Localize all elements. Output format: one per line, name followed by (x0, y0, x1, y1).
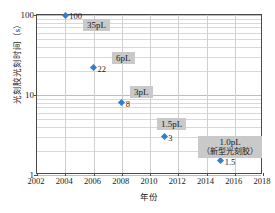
droplet-volume-annotation: 6pL (112, 52, 135, 64)
annotation-sublabel: （新型光刻胶） (202, 147, 258, 156)
annotation-label: 1.5pL (161, 119, 182, 129)
gridline-horizontal (37, 103, 261, 104)
annotation-label: 35pL (87, 20, 106, 30)
x-axis-tick-label: 2012 (169, 176, 186, 186)
gridline-horizontal (37, 127, 261, 128)
gridline-horizontal (37, 47, 261, 48)
y-axis-tick-mark (34, 95, 37, 96)
gridline-horizontal (37, 113, 261, 114)
data-point-value-label: 1.5 (225, 157, 236, 167)
gridline-vertical (65, 15, 66, 173)
annotation-label: 6pL (116, 53, 131, 63)
photoresist-exposure-time-chart: 光刻胶光刻时间（s） 11010010022831.5 年份 200220042… (0, 0, 275, 213)
x-axis-tick-label: 2008 (112, 176, 129, 186)
x-axis-tick-label: 2010 (141, 176, 158, 186)
data-point-marker[interactable] (118, 99, 125, 106)
data-point-value-label: 3 (168, 133, 172, 143)
y-axis-title: 光刻胶光刻时间（s） (10, 2, 22, 122)
gridline-vertical (94, 15, 95, 173)
gridline-vertical (122, 15, 123, 173)
droplet-volume-annotation: 3pL (130, 86, 153, 98)
gridline-horizontal (37, 57, 261, 58)
x-axis-tick-label: 2004 (56, 176, 73, 186)
annotation-label: 1.0pL (219, 137, 240, 147)
droplet-volume-annotation: 1.0pL（新型光刻胶） (198, 136, 262, 158)
gridline-horizontal (37, 71, 261, 72)
data-point-marker[interactable] (161, 133, 168, 140)
gridline-horizontal (37, 107, 261, 108)
y-axis-tick-mark (34, 15, 37, 16)
x-axis-tick-label: 2002 (28, 176, 45, 186)
gridline-horizontal (37, 99, 261, 100)
x-axis-tick-label: 2006 (84, 176, 101, 186)
annotation-label: 3pL (134, 87, 149, 97)
gridline-horizontal (37, 33, 261, 34)
gridline-horizontal (37, 119, 261, 120)
gridline-horizontal (37, 23, 261, 24)
droplet-volume-annotation: 35pL (83, 19, 110, 31)
x-axis-tick-label: 2014 (197, 176, 214, 186)
data-point-value-label: 8 (126, 99, 130, 109)
x-axis-tick-label: 2016 (225, 176, 242, 186)
x-axis-title: 年份 (36, 190, 262, 202)
data-point-value-label: 100 (69, 11, 82, 21)
data-point-marker[interactable] (217, 157, 224, 164)
data-point-marker[interactable] (62, 11, 69, 18)
gridline-horizontal (37, 27, 261, 28)
gridline-vertical (178, 15, 179, 173)
data-point-value-label: 22 (98, 64, 107, 74)
droplet-volume-annotation: 1.5pL (157, 118, 186, 130)
gridline-horizontal (37, 39, 261, 40)
x-axis-tick-label: 2018 (254, 176, 271, 186)
